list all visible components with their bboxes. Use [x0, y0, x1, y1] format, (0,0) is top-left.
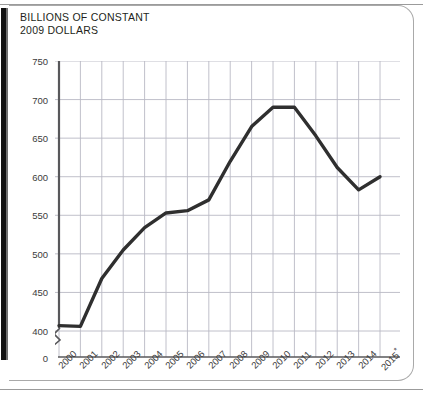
x-tick-label: 2012 [313, 348, 336, 371]
x-tick-label: 2009 [249, 348, 272, 371]
x-tick-label: 2001 [77, 348, 100, 371]
x-tick-label: 2013 [334, 348, 357, 371]
x-tick-label: 2005 [163, 348, 186, 371]
x-tick-label: 2007 [206, 348, 229, 371]
x-tick-label: 2004 [142, 348, 165, 371]
x-tick-label: 2014 [356, 348, 379, 371]
x-tick-label: 2002 [99, 348, 122, 371]
x-tick-label: 2006 [184, 348, 207, 371]
x-tick-label: 2008 [227, 348, 250, 371]
x-tick-label: 2015* [377, 346, 403, 372]
x-axis-tick-labels: 2000200120022003200420052006200720082009… [0, 0, 423, 404]
x-tick-label: 2000 [56, 348, 79, 371]
x-tick-label: 2003 [120, 348, 143, 371]
x-tick-label: 2011 [291, 349, 313, 371]
x-tick-label: 2010 [270, 348, 293, 371]
chart-figure: BILLIONS OF CONSTANT 2009 DOLLARS 040045… [0, 0, 423, 404]
